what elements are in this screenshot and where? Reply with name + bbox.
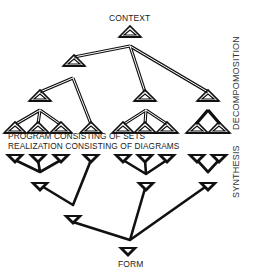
decomposition-tree xyxy=(16,46,220,124)
form-node-icon xyxy=(118,247,138,257)
synthesis-node-icon xyxy=(136,182,156,192)
diagram-node-icon xyxy=(187,154,207,164)
diagram-node-icon xyxy=(209,154,229,164)
diagram-node-icon xyxy=(135,154,155,164)
decomposition-side-label: DECOMPOMOSITION xyxy=(232,36,241,130)
context-node-icon xyxy=(119,26,141,37)
program-label: PROGRAM CONSISTING OF SETS xyxy=(8,132,145,140)
synthesis-side-label: SYNTHESIS xyxy=(232,145,241,198)
diagram-node-icon xyxy=(113,154,133,164)
diagram-node-icon xyxy=(51,154,71,164)
synthesis-tree xyxy=(15,160,219,240)
diagram-node-icon xyxy=(157,154,177,164)
diagram-node-icon xyxy=(28,154,48,164)
context-label: CONTEXT xyxy=(109,14,150,23)
diagram-node-icon xyxy=(81,154,101,164)
realization-label: REALIZATION CONSISTING OF DIAGRAMS xyxy=(8,142,180,150)
form-label: FORM xyxy=(118,260,143,269)
